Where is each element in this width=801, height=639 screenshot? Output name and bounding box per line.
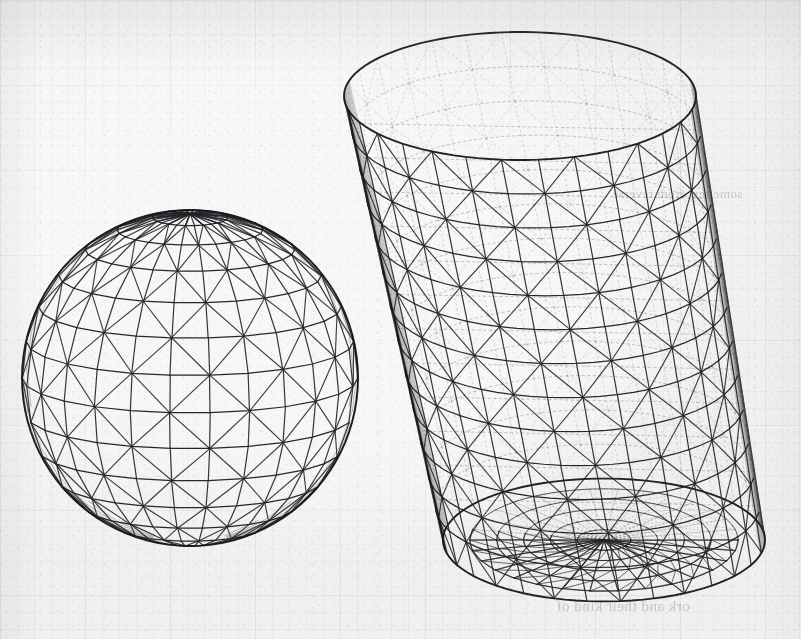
triangulated-sphere [22,210,358,546]
mesh-figure [0,0,801,639]
figure-page: some text from reverse ork and their kin… [0,0,801,639]
triangulated-cylinder [344,32,765,601]
